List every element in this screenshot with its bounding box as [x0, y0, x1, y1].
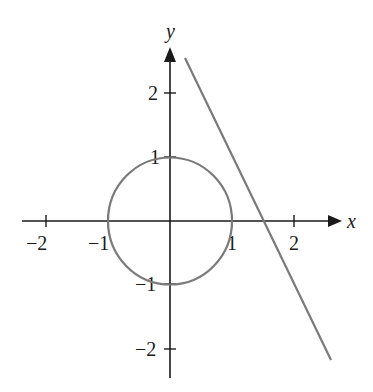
y-tick-label: −2: [135, 338, 156, 360]
y-axis-arrow-icon: [164, 47, 176, 62]
line-y-equals-neg2x-plus-3: [185, 58, 331, 360]
x-tick-label: 2: [289, 232, 299, 254]
coordinate-plot: x y −2 −1 1 2 2 1 −1 −2: [0, 0, 373, 392]
x-tick-label: −1: [88, 232, 109, 254]
x-axis-label: x: [346, 210, 356, 232]
y-axis-label: y: [164, 20, 175, 43]
y-tick-label: 2: [148, 82, 158, 104]
y-axis: y: [164, 20, 176, 378]
x-axis: x: [22, 210, 356, 232]
y-tick-label: 1: [150, 146, 160, 168]
x-axis-arrow-icon: [328, 215, 342, 227]
x-tick-label: −2: [26, 232, 47, 254]
